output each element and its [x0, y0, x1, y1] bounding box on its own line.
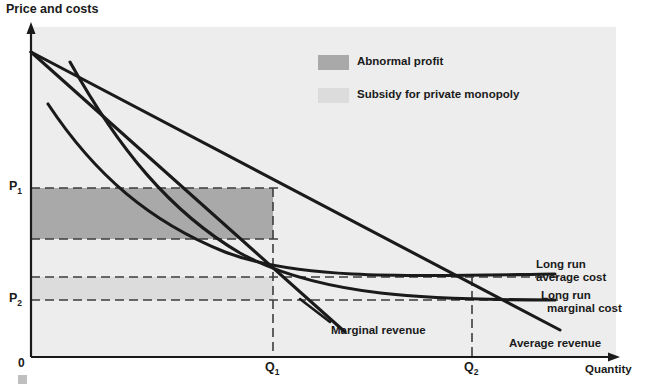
axis-value-p2: P2	[9, 291, 22, 308]
curve-label-lrac-line1: Long run	[536, 258, 586, 270]
curve-label-lrmc-line2: marginal cost	[547, 302, 622, 315]
legend-label-subsidy: Subsidy for private monopoly	[357, 88, 519, 101]
subsidy-region	[31, 277, 273, 300]
axis-value-q2-subscript: 2	[474, 367, 479, 377]
curve-label-lrmc-line1: Long run	[541, 289, 591, 301]
curve-label-lrac-line2: average cost	[536, 271, 606, 284]
axis-value-p1-subscript: 1	[17, 186, 22, 196]
axis-value-p2-subscript: 2	[17, 298, 22, 308]
scan-speck-artifact	[18, 375, 27, 384]
legend-label-abnormal-profit: Abnormal profit	[357, 55, 443, 68]
economics-diagram-figure: Price and costs Quantity 0 P1 P2 Q1 Q2 A…	[0, 0, 647, 391]
axis-value-q2-letter: Q	[464, 360, 474, 374]
x-axis-title: Quantity	[585, 363, 632, 376]
origin-label: 0	[18, 357, 25, 370]
plot-canvas	[0, 0, 647, 391]
curve-label-marginal-revenue: Marginal revenue	[331, 324, 426, 337]
axis-value-q1: Q1	[265, 360, 279, 377]
axis-value-p1: P1	[9, 179, 22, 196]
axis-value-q1-letter: Q	[265, 360, 275, 374]
legend-swatch-abnormal-profit	[318, 55, 349, 70]
curve-label-long-run-marginal-cost: Long run marginal cost	[541, 289, 622, 315]
y-axis-title: Price and costs	[6, 2, 98, 16]
curve-label-long-run-average-cost: Long run average cost	[536, 258, 606, 284]
curve-label-average-revenue: Average revenue	[509, 337, 601, 350]
legend-swatch-subsidy	[318, 88, 349, 103]
axis-value-q1-subscript: 1	[275, 367, 280, 377]
axis-value-q2: Q2	[464, 360, 478, 377]
